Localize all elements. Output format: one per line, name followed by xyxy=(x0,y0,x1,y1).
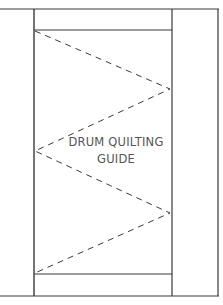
label-line-2: GUIDE xyxy=(60,151,172,168)
diagram-label: DRUM QUILTING GUIDE xyxy=(60,134,172,168)
label-line-1: DRUM QUILTING xyxy=(60,134,172,151)
